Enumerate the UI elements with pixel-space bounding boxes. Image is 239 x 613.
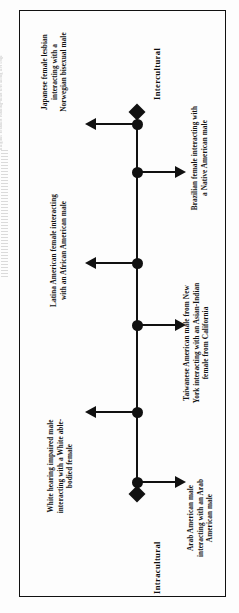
connector-latina-african-american xyxy=(96,262,137,264)
label-node-japanese-norwegian: Japanese female lesbian interacting with… xyxy=(40,12,69,132)
node-marker-latina-african-american xyxy=(132,258,143,269)
label-node-latina-african-american: Latina American female interacting with … xyxy=(49,163,68,338)
figure-canvas: illegible scanned running-head text alon… xyxy=(0,0,239,613)
arrowhead-japanese-norwegian xyxy=(85,118,96,130)
connector-japanese-norwegian xyxy=(96,123,137,125)
label-node-arab-american: Arab American male interacting with an A… xyxy=(186,453,215,583)
connector-arab-american xyxy=(137,481,175,483)
arrowhead-arab-american xyxy=(175,476,186,488)
label-node-taiwanese-asian-indian: Taiwanese American male from New York in… xyxy=(182,254,211,432)
node-marker-white-hearing-impaired xyxy=(132,407,143,418)
node-marker-brazilian-native-american xyxy=(132,167,143,178)
connector-white-hearing-impaired xyxy=(96,411,137,413)
arrowhead-brazilian-native-american xyxy=(175,166,186,178)
margin-running-head: illegible scanned running-head text alon… xyxy=(0,20,3,150)
label-node-brazilian-native-american: Brazilian female interacting with a Nati… xyxy=(190,78,209,238)
label-node-white-hearing-impaired: White hearing impaired male interacting … xyxy=(46,392,75,540)
arrowhead-white-hearing-impaired xyxy=(85,406,96,418)
axis-label-intracultural: Intracultural xyxy=(152,541,162,594)
arrowhead-latina-african-american xyxy=(85,257,96,269)
arrowhead-taiwanese-asian-indian xyxy=(175,319,186,331)
connector-brazilian-native-american xyxy=(137,171,175,173)
scan-margin-artifact xyxy=(1,150,8,278)
node-marker-taiwanese-asian-indian xyxy=(132,320,143,331)
axis-label-intercultural: Intercultural xyxy=(152,48,162,100)
connector-taiwanese-asian-indian xyxy=(137,324,175,326)
